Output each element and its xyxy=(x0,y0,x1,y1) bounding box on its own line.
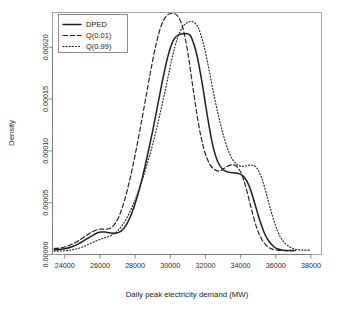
x-tick-label: 32000 xyxy=(195,261,215,270)
x-tick-label: 28000 xyxy=(125,261,145,270)
y-tick-label: 0.00000 xyxy=(41,242,50,268)
legend-items: DPEDQ(0.01)Q(0.99) xyxy=(63,20,112,51)
y-tick-label: 0.00020 xyxy=(41,34,50,60)
y-axis-title: Density xyxy=(7,120,16,146)
legend-label-q-0-01: Q(0.01) xyxy=(86,31,112,40)
y-tick-label: 0.00005 xyxy=(41,190,50,216)
x-tick-label: 34000 xyxy=(231,261,251,270)
y-tick-label: 0.00015 xyxy=(41,86,50,112)
x-tick-label: 38000 xyxy=(301,261,321,270)
y-tick-label: 0.00010 xyxy=(41,138,50,164)
x-tick-label: 36000 xyxy=(266,261,286,270)
legend-label-dped: DPED xyxy=(86,20,107,29)
x-tick-label: 24000 xyxy=(55,261,75,270)
density-plot-figure: 0.000000.000050.000100.000150.00020 2400… xyxy=(0,0,341,314)
x-tick-label: 30000 xyxy=(160,261,180,270)
x-axis-title: Daily peak electricity demand (MW) xyxy=(126,290,249,299)
legend-label-q-0-99: Q(0.99) xyxy=(86,42,112,51)
legend: DPEDQ(0.01)Q(0.99) xyxy=(59,15,128,53)
x-tick-label: 26000 xyxy=(90,261,110,270)
